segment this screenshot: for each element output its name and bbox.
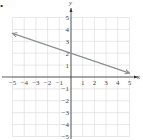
coordinate-plane: • −5−4−3−2−11234554321−1−2−3−4−5 x y — [0, 0, 143, 140]
x-tick-label: −5 — [9, 79, 17, 87]
x-axis-label: x — [136, 73, 141, 81]
y-tick-label: 5 — [66, 14, 70, 22]
y-tick-label: 3 — [66, 38, 70, 46]
x-tick-label: 2 — [93, 79, 97, 87]
x-tick-label: −2 — [44, 79, 52, 87]
y-tick-label: −2 — [62, 97, 70, 105]
x-tick-label: −3 — [32, 79, 40, 87]
bullet-marker: • — [0, 1, 3, 11]
y-tick-label: 1 — [66, 62, 70, 70]
y-tick-label: 4 — [66, 26, 70, 34]
y-tick-label: −1 — [62, 85, 70, 93]
x-tick-label: 4 — [116, 79, 120, 87]
y-tick-label: −3 — [62, 109, 70, 117]
y-axis-arrow-icon — [70, 8, 73, 12]
x-tick-label: 1 — [81, 79, 85, 87]
x-tick-label: 3 — [104, 79, 108, 87]
y-tick-label: 2 — [66, 50, 70, 58]
y-tick-label: −5 — [62, 133, 70, 140]
x-tick-label: −4 — [20, 79, 28, 87]
y-tick-label: −4 — [62, 121, 70, 129]
y-axis-label: y — [68, 0, 73, 7]
x-tick-label: 5 — [128, 79, 132, 87]
